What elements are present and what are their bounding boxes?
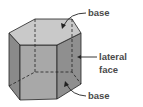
front-lateral-face <box>20 45 57 100</box>
lateral-face-label-line1: lateral <box>99 51 127 62</box>
top-base-label: base <box>88 7 110 18</box>
hexagonal-prism-diagram: base lateral face base <box>0 0 143 107</box>
lateral-face-label-line2: face <box>99 64 118 75</box>
bottom-base-label: base <box>88 90 110 101</box>
